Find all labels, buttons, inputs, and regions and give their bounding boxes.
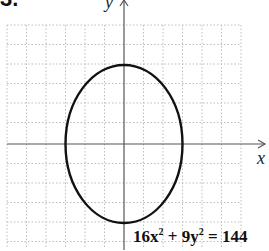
coordinate-plane <box>0 0 269 251</box>
y-axis-label: y <box>105 0 113 13</box>
equation-label: 16x2 + 9y2 = 144 <box>133 226 247 247</box>
axes <box>7 0 265 250</box>
x-axis-label: x <box>257 148 265 169</box>
